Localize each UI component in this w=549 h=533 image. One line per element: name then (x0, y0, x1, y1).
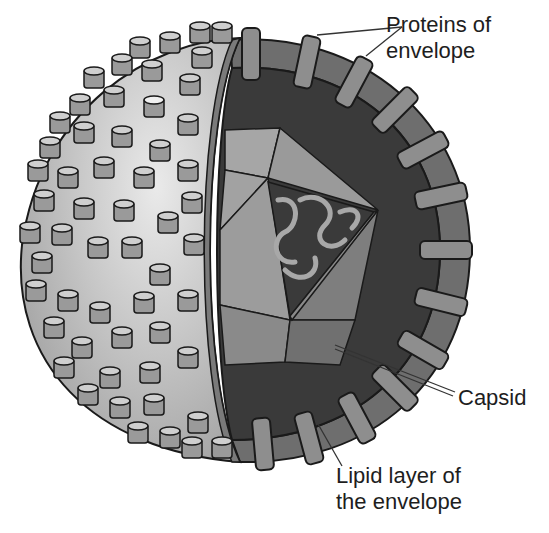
virus-diagram (0, 0, 549, 533)
label-proteins-line2: envelope (386, 38, 491, 64)
label-lipid-layer: Lipid layer of the envelope (336, 463, 462, 515)
label-capsid-text: Capsid (458, 385, 526, 411)
label-proteins-of-envelope: Proteins of envelope (386, 12, 491, 64)
label-lipid-line1: Lipid layer of (336, 463, 462, 489)
label-proteins-line1: Proteins of (386, 12, 491, 38)
label-capsid: Capsid (458, 385, 526, 411)
label-lipid-line2: the envelope (336, 489, 462, 515)
